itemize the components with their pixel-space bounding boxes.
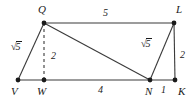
radicand-NL: 5: [146, 38, 152, 49]
length-label-NK: 1: [161, 85, 166, 95]
vertex-label-L: L: [176, 4, 182, 15]
radicand-VQ: 5: [16, 41, 22, 52]
edge-NL: [150, 23, 174, 80]
edge-LK: [174, 23, 175, 80]
vertex-label-W: W: [37, 86, 46, 97]
vertex-label-K: K: [178, 86, 185, 97]
length-label-LK: 2: [180, 50, 185, 60]
length-label-WN: 4: [98, 85, 103, 95]
vertex-dot-K: [173, 78, 178, 83]
edge-VQ: [18, 23, 44, 80]
edge-QN-diagonal: [44, 23, 150, 80]
vertex-dot-W: [42, 78, 47, 83]
vertex-label-N: N: [145, 86, 152, 97]
geometry-figure: V W Q L N K √5 5 2 √5 2 4 1: [0, 0, 196, 106]
vertex-label-V: V: [11, 86, 18, 97]
vertex-dot-V: [16, 78, 21, 83]
length-label-NL-sqrt5: √5: [141, 38, 152, 49]
length-label-QW: 2: [51, 51, 56, 61]
edges-group: [18, 23, 175, 80]
length-label-VQ-sqrt5: √5: [11, 41, 22, 52]
vertex-dot-L: [172, 21, 177, 26]
length-label-QL: 5: [103, 8, 108, 18]
vertex-label-Q: Q: [38, 4, 46, 15]
vertex-dot-Q: [42, 21, 47, 26]
vertex-dot-N: [148, 78, 153, 83]
